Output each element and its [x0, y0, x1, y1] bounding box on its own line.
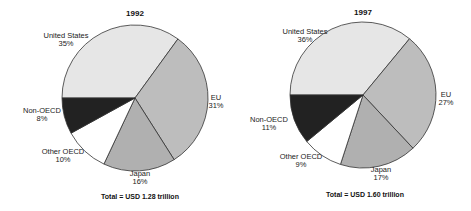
- chart-total-footer: Total = USD 1.60 trillion: [326, 191, 404, 198]
- slice-pct-other-oecd: 10%: [55, 155, 70, 164]
- slice-pct-non-oecd: 8%: [37, 114, 48, 123]
- slice-pct-united-states: 35%: [58, 39, 73, 48]
- chart-title: 1997: [354, 8, 372, 17]
- slice-pct-non-oecd: 11%: [262, 123, 277, 132]
- slice-pct-eu: 31%: [208, 101, 223, 110]
- slice-pct-japan: 16%: [132, 177, 147, 186]
- chart-total-footer: Total = USD 1.28 trillion: [101, 193, 179, 200]
- slice-pct-japan: 17%: [373, 173, 388, 182]
- slice-pct-other-oecd: 9%: [296, 160, 307, 169]
- pie-chart-1997: 1997 United States 36% EU 27% Japan 17% …: [250, 8, 454, 198]
- pie-chart-1992: 1992 United States 35% EU 31% Japan 16% …: [23, 9, 224, 200]
- slice-pct-eu: 27%: [438, 98, 453, 107]
- chart-title: 1992: [126, 9, 144, 18]
- pie-charts-figure: 1992 United States 35% EU 31% Japan 16% …: [0, 0, 471, 211]
- slice-pct-united-states: 36%: [297, 35, 312, 44]
